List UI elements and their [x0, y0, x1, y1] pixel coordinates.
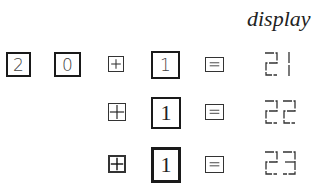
key-1[interactable]: 1 — [151, 51, 180, 79]
equals-key-icon[interactable] — [205, 57, 224, 72]
equals-key-icon[interactable] — [205, 156, 224, 173]
key-0[interactable]: 0 — [54, 52, 81, 77]
key-2[interactable]: 2 — [6, 52, 31, 77]
display-heading: display — [247, 6, 311, 32]
plus-key-icon[interactable] — [108, 103, 126, 121]
display-value: 22 — [263, 98, 299, 126]
plus-key-icon[interactable] — [108, 155, 126, 173]
display-value: 23 — [263, 149, 299, 177]
key-1[interactable]: 1 — [151, 97, 181, 129]
display-value: 21 — [263, 50, 293, 78]
equals-key-icon[interactable] — [205, 104, 224, 120]
plus-key-icon[interactable] — [108, 56, 124, 72]
key-1[interactable]: 1 — [151, 147, 181, 183]
